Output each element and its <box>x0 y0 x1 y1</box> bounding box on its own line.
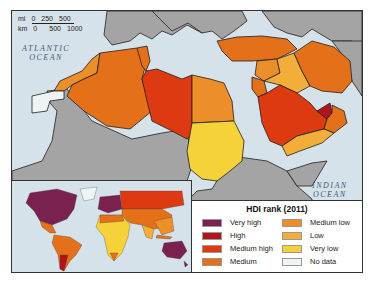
scale-km-label: km <box>18 25 27 33</box>
swatch-low <box>282 232 302 240</box>
swatch-medium-high <box>202 245 222 253</box>
world-inset-map <box>12 180 192 272</box>
legend: HDI rank (2011) Very high High Medium hi… <box>191 200 362 272</box>
legend-item-very-high: Very high <box>202 216 282 229</box>
legend-item-medium: Medium <box>202 255 282 268</box>
swatch-very-low <box>282 245 302 253</box>
legend-title: HDI rank (2011) <box>192 204 362 214</box>
swatch-medium-low <box>282 219 302 227</box>
swatch-no-data <box>282 258 302 266</box>
swatch-very-high <box>202 219 222 227</box>
map-frame: mi 0 250 500 km 0 500 1000 ATLANTIC OCEA… <box>11 10 363 273</box>
legend-item-medium-low: Medium low <box>282 216 362 229</box>
scale-mi-label: mi <box>18 15 25 23</box>
scale-bar: mi 0 250 500 km 0 500 1000 <box>18 15 83 33</box>
atlantic-ocean-label: ATLANTIC OCEAN <box>22 44 70 62</box>
swatch-high <box>202 232 222 240</box>
legend-item-very-low: Very low <box>282 242 362 255</box>
legend-item-no-data: No data <box>282 255 362 268</box>
indian-ocean-label: INDIAN OCEAN <box>312 181 348 199</box>
legend-item-medium-high: Medium high <box>202 242 282 255</box>
legend-item-high: High <box>202 229 282 242</box>
swatch-medium <box>202 258 222 266</box>
legend-item-low: Low <box>282 229 362 242</box>
